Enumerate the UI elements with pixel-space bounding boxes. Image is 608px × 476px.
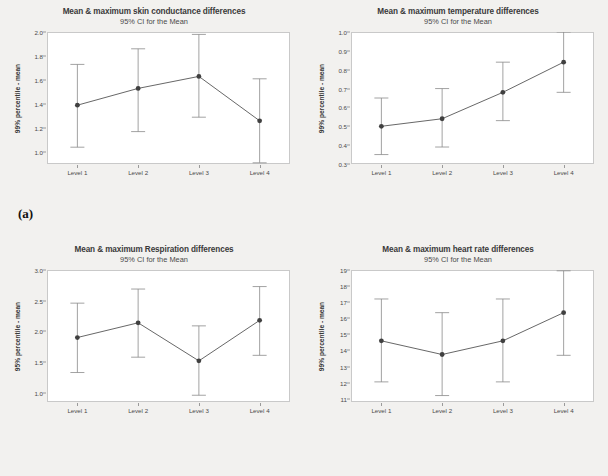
chart-c-data-point (196, 358, 201, 363)
chart-a-plot: 99% percentile - mean 2.01.81.61.41.21.0… (14, 32, 294, 182)
chart-a-ytick-mark (43, 80, 46, 81)
chart-b-title: Mean & maximum temperature differences (318, 6, 598, 17)
chart-b-data-point (500, 90, 505, 95)
panel-d: Mean & maximum heart rate differences 95… (304, 238, 608, 476)
chart-b-ytick-label: 0.5 (338, 123, 347, 130)
chart-d-xticks: Level 1Level 2Level 3Level 4 (351, 403, 594, 419)
chart-b-ytick-mark (347, 107, 350, 108)
chart-c-ytick-mark (43, 300, 46, 301)
chart-d-xtick-label: Level 2 (432, 407, 452, 414)
chart-d-data-point (500, 338, 505, 343)
chart-b-subtitle: 95% CI for the Mean (318, 17, 598, 27)
chart-b-ytick-label: 0.7 (338, 85, 347, 92)
chart-d-ytick-label: 13 (340, 363, 347, 370)
chart-b-ytick-label: 0.3 (338, 161, 347, 168)
chart-c-ytick-mark (43, 331, 46, 332)
chart-d-series (351, 270, 594, 402)
chart-a-data-point (136, 86, 141, 91)
chart-c-xticks: Level 1Level 2Level 3Level 4 (47, 403, 290, 419)
chart-a-xtick-label: Level 4 (250, 169, 270, 176)
chart-d-ytick-label: 16 (340, 315, 347, 322)
chart-c-ytick-label: 1.5 (34, 359, 43, 366)
chart-d-ytick-mark (347, 366, 350, 367)
chart-c-title: Mean & maximum Respiration differences (14, 244, 294, 255)
chart-c-xtick-label: Level 3 (189, 407, 209, 414)
chart-c-ytick-label: 1.0 (34, 389, 43, 396)
chart-c-ytick-label: 2.0 (34, 328, 43, 335)
chart-d-ytick-mark (347, 398, 350, 399)
chart-b-xtick-mark (442, 165, 443, 168)
chart-c-ytick-label: 3.0 (34, 267, 43, 274)
chart-d-ytick-mark (347, 302, 350, 303)
chart-c-subtitle: 95% CI for the Mean (14, 255, 294, 265)
chart-a-ytick-label: 1.0 (34, 149, 43, 156)
chart-d-ylabel: 99% percentile - mean (316, 270, 328, 402)
chart-a-ytick-mark (43, 104, 46, 105)
chart-b-yticks: 1.00.90.80.70.60.50.40.3 (328, 32, 350, 164)
chart-b-ytick-label: 0.4 (338, 142, 347, 149)
chart-d-xtick-mark (564, 403, 565, 406)
chart-a-data-point (75, 103, 80, 108)
chart-c-connector-line (77, 320, 259, 361)
chart-a-ytick-mark (43, 152, 46, 153)
chart-a-xtick-mark (199, 165, 200, 168)
chart-d-ytick-mark (347, 270, 350, 271)
chart-b-ytick-mark (347, 88, 350, 89)
chart-b-xtick-mark (381, 165, 382, 168)
chart-b-ytick-mark (347, 145, 350, 146)
chart-b-xtick-mark (564, 165, 565, 168)
chart-d-title: Mean & maximum heart rate differences (318, 244, 598, 255)
chart-a-title: Mean & maximum skin conductance differen… (14, 6, 294, 17)
chart-b-ytick-label: 1.0 (338, 29, 347, 36)
chart-a-subtitle: 95% CI for the Mean (14, 17, 294, 27)
chart-d-data-point (440, 352, 445, 357)
chart-d: Mean & maximum heart rate differences 95… (318, 244, 598, 440)
chart-b-ytick-label: 0.6 (338, 104, 347, 111)
chart-a-xtick-mark (138, 165, 139, 168)
chart-b-series (351, 32, 594, 164)
chart-b-ytick-mark (347, 50, 350, 51)
chart-d-xtick-label: Level 3 (493, 407, 513, 414)
chart-c-xtick-label: Level 4 (250, 407, 270, 414)
panel-c: Mean & maximum Respiration differences 9… (0, 238, 304, 476)
chart-a-ylabel: 99% percentile - mean (12, 32, 24, 164)
chart-c-xtick-mark (199, 403, 200, 406)
chart-d-ytick-mark (347, 350, 350, 351)
chart-a-titles: Mean & maximum skin conductance differen… (14, 6, 294, 27)
chart-d-xtick-mark (503, 403, 504, 406)
chart-d-ytick-label: 17 (340, 299, 347, 306)
chart-a-xtick-mark (260, 165, 261, 168)
chart-b-xtick-label: Level 3 (493, 169, 513, 176)
chart-c-xtick-mark (260, 403, 261, 406)
chart-b-data-point (561, 60, 566, 65)
chart-c-xtick-label: Level 1 (67, 407, 87, 414)
chart-a-ytick-mark (43, 32, 46, 33)
chart-d-connector-line (381, 313, 563, 355)
panel-a: Mean & maximum skin conductance differen… (0, 0, 304, 238)
chart-b-xtick-mark (503, 165, 504, 168)
chart-b-plot: 99% percentile - mean 1.00.90.80.70.60.5… (318, 32, 598, 182)
chart-a-series (47, 32, 290, 164)
chart-c-ytick-label: 2.5 (34, 297, 43, 304)
chart-d-ytick-mark (347, 382, 350, 383)
chart-a: Mean & maximum skin conductance differen… (14, 6, 294, 202)
chart-d-xtick-mark (381, 403, 382, 406)
chart-c-series (47, 270, 290, 402)
chart-a-data-point (196, 74, 201, 79)
chart-a-ytick-mark (43, 56, 46, 57)
chart-b-data-point (440, 116, 445, 121)
chart-b-xtick-label: Level 2 (432, 169, 452, 176)
chart-d-ytick-label: 12 (340, 379, 347, 386)
chart-b-ytick-mark (347, 69, 350, 70)
chart-d-ytick-label: 18 (340, 283, 347, 290)
chart-a-xtick-label: Level 1 (67, 169, 87, 176)
chart-a-ytick-label: 1.2 (34, 125, 43, 132)
chart-a-ytick-label: 1.8 (34, 53, 43, 60)
chart-c-titles: Mean & maximum Respiration differences 9… (14, 244, 294, 265)
chart-a-data-point (257, 118, 262, 123)
chart-b-connector-line (381, 62, 563, 126)
chart-b-titles: Mean & maximum temperature differences 9… (318, 6, 598, 27)
chart-b: Mean & maximum temperature differences 9… (318, 6, 598, 202)
chart-d-xtick-label: Level 4 (554, 407, 574, 414)
chart-c-data-point (257, 318, 262, 323)
